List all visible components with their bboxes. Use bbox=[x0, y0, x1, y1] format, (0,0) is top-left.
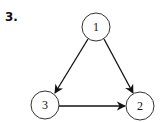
node-2: 2 bbox=[126, 92, 154, 120]
node-3: 3 bbox=[31, 91, 59, 119]
directed-graph: 1 2 3 bbox=[0, 0, 161, 122]
edge-1-2 bbox=[104, 39, 133, 93]
node-1: 1 bbox=[82, 13, 110, 41]
node-2-label: 2 bbox=[137, 99, 143, 113]
node-1-label: 1 bbox=[93, 20, 99, 34]
edge-1-3 bbox=[55, 39, 88, 93]
node-3-label: 3 bbox=[42, 98, 48, 112]
